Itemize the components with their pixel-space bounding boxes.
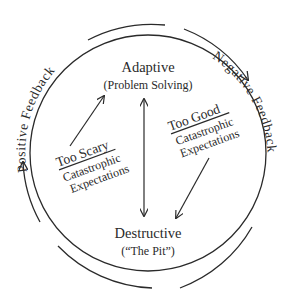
- too-good-label: Too Good Catastrophic Expectations: [166, 98, 241, 161]
- adaptive-subtitle: (Problem Solving): [104, 78, 193, 92]
- outer-arc-bottom-right: [180, 227, 252, 288]
- outer-arc-top: [88, 24, 165, 40]
- destructive-title: Destructive: [115, 225, 182, 241]
- too-scary-label: Too Scary Catastrophic Expectations: [54, 133, 131, 197]
- destructive-subtitle: (“The Pit”): [121, 244, 175, 258]
- too-good-arrow: [176, 158, 209, 218]
- adaptive-title: Adaptive: [121, 59, 174, 75]
- feedback-diagram: Positive Feedback Negative Feedback Adap…: [0, 0, 296, 300]
